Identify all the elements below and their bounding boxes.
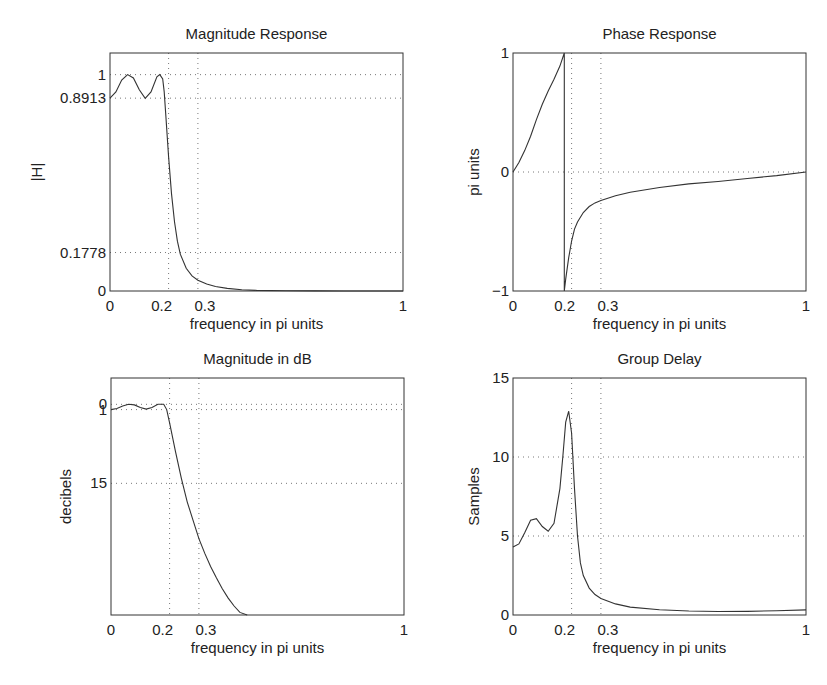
- y-tick-label: 5: [501, 527, 509, 544]
- x-tick-label: 1: [802, 297, 810, 314]
- y-tick-label: 10: [492, 448, 509, 465]
- plot-title: Magnitude in dB: [203, 350, 311, 367]
- x-tick-label: 0.3: [194, 297, 215, 314]
- axes-frame: [111, 378, 404, 615]
- y-axis-label: decibels: [57, 469, 74, 524]
- subplot-phase-response: Phase Response frequency in pi units pi …: [465, 25, 810, 332]
- response-curve: [111, 404, 247, 615]
- grid-lines: [513, 378, 806, 615]
- x-tick-label: 0.2: [151, 297, 172, 314]
- x-tick-label: 1: [802, 621, 810, 638]
- tick-labels: 00.20.310115: [90, 395, 408, 638]
- axes-frame: [513, 53, 806, 291]
- x-axis-label: frequency in pi units: [593, 639, 726, 656]
- y-tick-label: 0: [501, 163, 509, 180]
- x-axis-label: frequency in pi units: [593, 315, 726, 332]
- tick-labels: 00.20.31051015: [492, 369, 810, 638]
- x-tick-label: 0.3: [597, 621, 618, 638]
- tick-labels: 00.20.31−101: [492, 44, 810, 314]
- y-axis-label: pi units: [465, 148, 482, 196]
- y-tick-label: 0.1778: [60, 244, 106, 261]
- y-tick-label: −1: [492, 282, 509, 299]
- x-tick-label: 0.2: [152, 621, 173, 638]
- y-tick-label: 0: [501, 606, 509, 623]
- x-axis-label: frequency in pi units: [191, 639, 324, 656]
- x-tick-label: 0: [107, 621, 115, 638]
- x-tick-label: 0.3: [597, 297, 618, 314]
- subplot-magnitude-db: Magnitude in dB frequency in pi units de…: [57, 350, 408, 656]
- response-curve: [110, 75, 403, 291]
- y-tick-label: 0.8913: [60, 89, 106, 106]
- y-axis-label: Samples: [465, 467, 482, 525]
- x-tick-label: 0: [509, 297, 517, 314]
- x-axis-label: frequency in pi units: [190, 315, 323, 332]
- grid-lines: [513, 53, 806, 291]
- y-axis-label: |H|: [28, 163, 45, 182]
- axes-frame: [110, 53, 403, 291]
- y-tick-label: 1: [501, 44, 509, 61]
- plot-title: Magnitude Response: [186, 25, 328, 42]
- y-tick-label: 15: [492, 369, 509, 386]
- figure: Magnitude Response frequency in pi units…: [0, 0, 827, 685]
- y-tick-label: 0: [98, 282, 106, 299]
- grid-lines: [110, 53, 403, 291]
- y-tick-label: 15: [90, 474, 107, 491]
- x-tick-label: 0.2: [554, 297, 575, 314]
- plot-title: Phase Response: [602, 25, 716, 42]
- y-tick-label: 1: [99, 401, 107, 418]
- x-tick-label: 0.3: [195, 621, 216, 638]
- plot-title: Group Delay: [617, 350, 702, 367]
- subplot-group-delay: Group Delay frequency in pi units Sample…: [465, 350, 810, 656]
- x-tick-label: 0: [509, 621, 517, 638]
- response-curve: [513, 53, 806, 291]
- x-tick-label: 1: [399, 297, 407, 314]
- tick-labels: 00.20.3100.17780.89131: [60, 66, 407, 314]
- x-tick-label: 0.2: [554, 621, 575, 638]
- grid-lines: [111, 378, 404, 615]
- y-tick-label: 1: [98, 66, 106, 83]
- x-tick-label: 0: [106, 297, 114, 314]
- subplot-magnitude-response: Magnitude Response frequency in pi units…: [28, 25, 407, 332]
- x-tick-label: 1: [400, 621, 408, 638]
- axes-frame: [513, 378, 806, 615]
- response-curve: [513, 411, 806, 611]
